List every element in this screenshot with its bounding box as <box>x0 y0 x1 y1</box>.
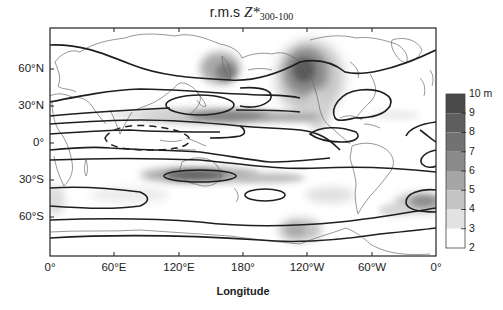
colorbar-label-5: 5 <box>469 183 475 195</box>
colorbar-label-9: 9 <box>469 106 475 118</box>
y-tick-30N: 30°N <box>4 99 44 111</box>
colorbar-label-4: 4 <box>469 202 475 214</box>
x-tick-180: 180° <box>218 261 268 273</box>
y-tick-0: 0° <box>4 136 44 148</box>
colorbar <box>446 94 466 248</box>
x-tick-60E: 60°E <box>89 261 139 273</box>
y-tick-30S: 30°S <box>4 173 44 185</box>
colorbar-label-2: 2 <box>469 241 475 253</box>
x-tick-120W: 120°W <box>282 261 332 273</box>
colorbar-label-6: 6 <box>469 164 475 176</box>
colorbar-label-10: 10 m <box>469 87 492 99</box>
x-tick-120E: 120°E <box>154 261 204 273</box>
colorbar-label-8: 8 <box>469 125 475 137</box>
x-tick-60W: 60°W <box>347 261 397 273</box>
x-tick-0: 0° <box>25 261 75 273</box>
x-axis-title: Longitude <box>0 285 486 297</box>
map-plot-area <box>45 28 446 256</box>
colorbar-label-7: 7 <box>469 145 475 157</box>
y-tick-60N: 60°N <box>4 62 44 74</box>
y-tick-60S: 60°S <box>4 210 44 222</box>
x-tick-0-end: 0° <box>411 261 461 273</box>
colorbar-label-3: 3 <box>469 222 475 234</box>
